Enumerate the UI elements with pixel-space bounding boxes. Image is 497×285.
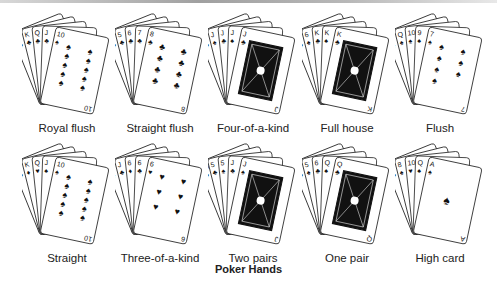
card-suit-icon: ♠: [417, 167, 421, 174]
poker-hand-4: 6♣6♠K♣K♠K♣KFull house: [302, 12, 392, 132]
poker-hand-5: A♠Q♠10♠9♠7♠♠♠♠♠♠♠♠7Flush: [395, 12, 485, 132]
card-suit-icon: ♣: [44, 37, 49, 44]
card-fan-illustration: 3♣8♠10♥Q♠A♠♠A: [395, 142, 485, 252]
card-rank: J: [44, 29, 48, 36]
hand-label: Flush: [385, 122, 495, 134]
poker-hand-2: 4♣5♣6♣7♣8♣♣♣♣♣♣♣♣♣8Straight flush: [115, 12, 205, 132]
card-rank: J: [230, 159, 234, 166]
card-fan-illustration: 5♣J♠J♣J♠J♣J: [208, 12, 298, 122]
poker-hand-6: A♣K♦Q♥J♠10♠♠♠♠♠♠♠♠♠♠♠10Straight: [22, 142, 112, 262]
card-fan-illustration: 4♣5♣6♣7♣8♣♣♣♣♣♣♣♣♣8: [115, 12, 205, 122]
card-suit-icon: ♠: [230, 37, 234, 44]
card-fan-illustration: 5♠J♣6♦6♣6♥♥♥♥♥♥♥6: [115, 142, 205, 252]
card-rank: Q: [324, 159, 330, 167]
card-rank: Q: [417, 159, 423, 167]
card-suit-icon: ♣: [137, 167, 142, 174]
card-suit-icon: ♠: [324, 167, 328, 174]
top-border: [0, 0, 497, 3]
figure-title: Poker Hands: [0, 263, 497, 275]
card-fan-illustration: 10♣5♣5♠J♣J♠J: [208, 142, 298, 252]
poker-hand-7: 5♠J♣6♦6♣6♥♥♥♥♥♥♥6Three-of-a-kind: [115, 142, 205, 262]
card-rank: J: [230, 29, 234, 36]
card-suit-icon: ♣: [230, 167, 235, 174]
card-fan-illustration: 6♣6♠K♣K♠K♣K: [302, 12, 392, 122]
card-fan-illustration: A♣K♦Q♥J♠10♠♠♠♠♠♠♠♠♠♠♠10: [22, 142, 112, 252]
poker-hand-9: 3♣5♠6♣Q♠Q♣QOne pair: [302, 142, 392, 262]
card-rank: 7: [137, 29, 141, 36]
card-rank: 10: [407, 29, 416, 37]
card-suit-icon: ♠: [44, 167, 48, 174]
card-rank: J: [44, 159, 48, 166]
card-rank: 10: [407, 159, 416, 167]
card-suit-icon: ♣: [137, 37, 142, 44]
poker-hand-8: 10♣5♣5♠J♣J♠JTwo pairs: [208, 142, 298, 262]
card-suit-icon: ♥: [35, 167, 40, 174]
card-fan-illustration: A♠Q♠10♠9♠7♠♠♠♠♠♠♠♠7: [395, 12, 485, 122]
poker-hand-3: 5♣J♠J♣J♠J♣JFour-of-a-kind: [208, 12, 298, 132]
card-fan-illustration: A♣K♣Q♣J♣10♠♠♠♠♠♠♠♠♠♠♠10: [22, 12, 112, 122]
card-suit-icon: ♠: [324, 37, 328, 44]
card-suit-icon: ♠: [417, 37, 421, 44]
card-fan-illustration: 3♣5♠6♣Q♠Q♣Q: [302, 142, 392, 252]
card-suit-icon: ♥: [408, 167, 413, 174]
card-rank: 9: [417, 29, 421, 36]
card-rank: 6: [137, 159, 141, 166]
poker-hand-10: 3♣8♠10♥Q♠A♠♠AHigh card: [395, 142, 485, 262]
card-rank: K: [324, 29, 329, 36]
poker-hand-1: A♣K♣Q♣J♣10♠♠♠♠♠♠♠♠♠♠♠10Royal flush: [22, 12, 112, 132]
card-rank: J: [220, 29, 224, 36]
